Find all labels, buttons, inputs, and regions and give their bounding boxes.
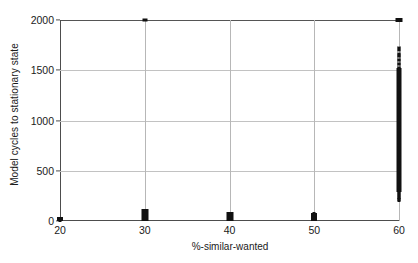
data-point [398, 193, 401, 195]
plot-area: 0500100015002000 2030405060 [60, 20, 399, 221]
y-axis-title-text: Model cycles to stationary state [9, 43, 20, 186]
data-point [398, 112, 401, 114]
data-point [398, 131, 401, 133]
data-point [398, 53, 401, 55]
x-tick-label: 60 [393, 224, 405, 236]
data-point [398, 106, 401, 108]
data-point [398, 158, 401, 160]
data-point [398, 91, 401, 93]
data-point [398, 118, 401, 120]
data-point [398, 164, 401, 166]
data-point [398, 143, 401, 145]
data-point [398, 49, 401, 51]
data-point [398, 155, 401, 157]
data-point [398, 94, 401, 96]
data-point [398, 128, 401, 130]
data-point [398, 100, 401, 102]
data-point [398, 67, 401, 69]
data-point [398, 179, 401, 181]
y-tick-label: 2000 [31, 14, 54, 26]
data-point [398, 191, 401, 193]
data-point [398, 59, 401, 61]
y-tick-mark [56, 170, 60, 171]
data-point [398, 125, 401, 127]
x-tick-label: 40 [224, 224, 236, 236]
data-point [143, 209, 146, 211]
x-axis-title: %-similar-wanted [60, 241, 400, 252]
data-point [398, 176, 401, 178]
data-point [398, 195, 401, 197]
y-tick-label: 500 [36, 165, 54, 177]
data-point [398, 122, 401, 124]
data-point [228, 212, 231, 214]
data-point [398, 76, 401, 78]
data-point [398, 19, 401, 21]
data-point [398, 149, 401, 151]
y-tick-label: 1500 [31, 64, 54, 76]
y-tick-mark [56, 19, 60, 20]
scatter-chart-figure: Model cycles to stationary state 0500100… [0, 0, 418, 263]
data-point [398, 173, 401, 175]
data-point [398, 47, 401, 49]
data-point [398, 103, 401, 105]
x-tick-label: 20 [54, 224, 66, 236]
data-point [398, 137, 401, 139]
x-tick-label: 50 [308, 224, 320, 236]
data-point [398, 115, 401, 117]
data-point [398, 97, 401, 99]
data-point [398, 152, 401, 154]
data-point [398, 140, 401, 142]
data-point [398, 197, 401, 199]
data-point [398, 134, 401, 136]
data-point [398, 182, 401, 184]
gridline-vertical [230, 20, 231, 221]
data-point [398, 70, 401, 72]
x-tick-label: 30 [139, 224, 151, 236]
data-point [143, 19, 146, 21]
data-point [398, 170, 401, 172]
data-point [398, 109, 401, 111]
y-tick-mark [56, 120, 60, 121]
data-point [398, 79, 401, 81]
data-point [313, 212, 316, 214]
y-tick-label: 1000 [31, 115, 54, 127]
gridline-vertical [145, 20, 146, 221]
y-axis-title: Model cycles to stationary state [4, 0, 24, 228]
data-point [59, 217, 62, 219]
data-point [398, 55, 401, 57]
data-point [398, 185, 401, 187]
data-point [398, 63, 401, 65]
data-point [398, 88, 401, 90]
data-point [398, 146, 401, 148]
data-point [398, 167, 401, 169]
data-point [398, 85, 401, 87]
data-point [398, 73, 401, 75]
data-point [398, 188, 401, 190]
data-point [398, 82, 401, 84]
data-point [398, 161, 401, 163]
y-tick-label: 0 [48, 215, 54, 227]
gridline-vertical [314, 20, 315, 221]
y-tick-mark [56, 70, 60, 71]
